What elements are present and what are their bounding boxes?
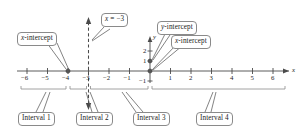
brace-interval-3 [91,86,149,89]
x-tick-label-6: 6 [271,74,274,81]
interval-leader-lines [36,92,216,112]
callout-y-intercept: y-intercept [157,21,197,35]
x-tick-label-3: 3 [210,74,213,81]
y-tick-label-1: 1 [143,57,146,64]
point-x-intercept-minus4 [66,69,70,73]
leader-interval-1-a [36,92,46,112]
callout-interval-1: Interval 1 [18,112,55,126]
callout-interval-3: Interval 3 [133,112,170,126]
x-tick-label--3: −3 [83,74,90,81]
callout-x-intercept-left: x-intercept [17,32,57,46]
brace-interval-4 [152,86,285,89]
interval-braces [21,86,285,89]
x-tick-label--6: −6 [21,74,28,81]
y-axis-arrowhead [148,36,153,42]
callout-interval-2: Interval 2 [76,112,113,126]
x-tick-label-4: 4 [230,74,233,81]
x-tick-label--1: −1 [124,74,131,81]
x-tick-label--4: −4 [62,74,69,81]
y-tick-label--1: −1 [139,77,146,84]
leader-interval-1-b [43,92,50,112]
point-y-intercept [148,59,152,63]
x-tick-label-1: 1 [169,74,172,81]
brace-interval-2 [70,86,87,89]
figure-number-line: −6 −5 −4 −3 −2 −1 1 2 3 4 5 6 2 1 −1 x y… [0,0,304,140]
leader-x-intercept-right-a [152,45,176,70]
leader-asymptote-a [92,27,104,40]
asymptote-arrow-up [86,17,91,24]
x-axis-arrowhead [283,69,289,74]
x-tick-label--2: −2 [103,74,110,81]
x-tick-label--5: −5 [42,74,49,81]
callout-x-intercept-right: x-intercept [171,35,211,49]
y-axis-label: y [153,33,156,40]
brace-interval-1 [21,86,66,89]
callout-vertical-asymptote: x = −3 [101,13,128,27]
dashed-vertical-line-x-equals-minus-3 [86,17,91,110]
callout-interval-4: Interval 4 [196,112,233,126]
x-tick-label-2: 2 [189,74,192,81]
x-tick-label-5: 5 [251,74,254,81]
y-tick-label-2: 2 [143,47,146,54]
point-x-intercept-zero [148,69,152,73]
x-axis-label: x [292,66,295,73]
